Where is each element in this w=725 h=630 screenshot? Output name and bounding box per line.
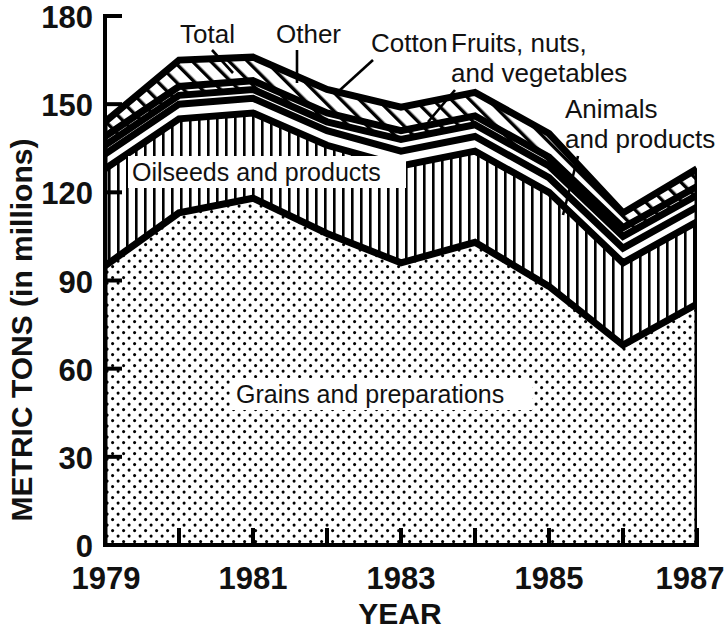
x-tick-label-1981: 1981 xyxy=(219,561,288,596)
x-tick-label-1985: 1985 xyxy=(515,561,584,596)
series-label-oilseeds-text: Oilseeds and products xyxy=(132,158,381,186)
callout-total-text: Total xyxy=(180,19,235,49)
series-label-grains: Grains and preparations xyxy=(232,378,532,410)
callout-cotton: Cotton xyxy=(340,28,448,90)
x-tick-label-1983: 1983 xyxy=(367,561,436,596)
callout-cotton-text: Cotton xyxy=(371,28,448,58)
callout-animals-line1: Animals xyxy=(565,94,657,124)
callout-fruits-line2: and vegetables xyxy=(451,58,627,88)
y-tick-label-90: 90 xyxy=(59,265,93,300)
y-tick-label-180: 180 xyxy=(41,0,93,35)
callout-fruits-line1: Fruits, nuts, xyxy=(451,28,587,58)
x-tick-label-1979: 1979 xyxy=(72,561,141,596)
x-tick-label-1987: 1987 xyxy=(656,561,725,596)
y-tick-label-30: 30 xyxy=(59,441,93,476)
x-axis-title: YEAR xyxy=(358,597,442,630)
y-tick-label-150: 150 xyxy=(41,88,93,123)
callout-animals-line2: and products xyxy=(565,124,715,154)
y-tick-label-0: 0 xyxy=(76,529,93,564)
area-chart-svg: 180 150 120 90 60 30 0 1979 1981 1983 19… xyxy=(0,0,725,630)
y-axis-title: METRIC TONS (in millions) xyxy=(5,139,38,522)
callout-other-text: Other xyxy=(276,19,341,49)
series-label-oilseeds: Oilseeds and products xyxy=(128,156,406,188)
chart-root: 180 150 120 90 60 30 0 1979 1981 1983 19… xyxy=(0,0,725,630)
y-tick-label-60: 60 xyxy=(59,353,93,388)
y-tick-label-120: 120 xyxy=(41,176,93,211)
series-label-grains-text: Grains and preparations xyxy=(236,380,504,408)
